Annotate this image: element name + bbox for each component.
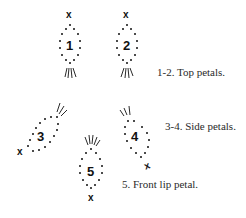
stitch-lines bbox=[85, 135, 100, 146]
petal-number: 2 bbox=[123, 38, 130, 53]
petal-4: 4 x bbox=[120, 106, 152, 172]
start-marker: x bbox=[66, 9, 72, 20]
start-marker: x bbox=[88, 192, 94, 203]
petal-1: x 1 bbox=[59, 9, 81, 78]
caption-front-petal: 5. Front lip petal. bbox=[122, 178, 198, 190]
petal-number: 1 bbox=[66, 38, 73, 53]
petal-number: 3 bbox=[37, 129, 44, 144]
caption-side-petals: 3-4. Side petals. bbox=[165, 120, 236, 132]
petal-diagram: x 1 x bbox=[0, 0, 246, 218]
stitch-lines bbox=[57, 103, 67, 116]
petal-number: 5 bbox=[87, 164, 94, 179]
start-marker: x bbox=[142, 159, 151, 171]
stitch-lines bbox=[65, 68, 76, 78]
petal-5: 5 x bbox=[79, 135, 103, 203]
start-marker: x bbox=[17, 146, 23, 157]
stitch-lines bbox=[120, 106, 130, 116]
petal-2: x 2 bbox=[116, 9, 138, 78]
start-marker: x bbox=[123, 9, 129, 20]
stitch-lines bbox=[121, 68, 133, 78]
caption-top-petals: 1-2. Top petals. bbox=[157, 66, 225, 78]
petal-number: 4 bbox=[131, 129, 139, 144]
petal-3: x 3 bbox=[17, 103, 67, 157]
